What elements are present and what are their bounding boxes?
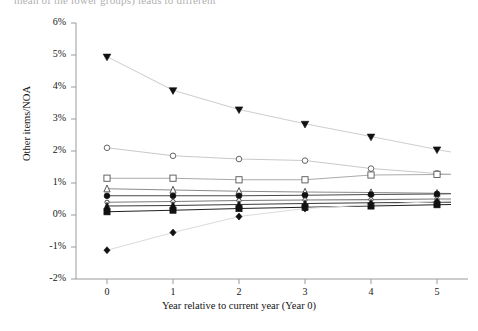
x-tick-label: 0: [92, 286, 122, 297]
data-point-marker: [104, 175, 110, 181]
data-point-marker: [302, 158, 308, 164]
data-point-marker: [170, 153, 176, 159]
y-tick-label: 1%: [26, 176, 66, 187]
data-point-marker: [236, 206, 242, 212]
y-tick-label: 6%: [26, 16, 66, 27]
y-tick-label: 5%: [26, 48, 66, 59]
data-point-marker: [104, 209, 110, 215]
data-point-marker: [104, 193, 110, 199]
data-series: [104, 145, 451, 176]
data-series: [103, 54, 451, 154]
data-point-marker: [236, 193, 242, 199]
data-point-marker: [170, 175, 176, 181]
y-tick-label: -2%: [26, 272, 66, 283]
data-point-marker: [236, 177, 242, 183]
data-series: [104, 198, 451, 254]
data-point-marker: [104, 247, 110, 254]
data-point-marker: [302, 177, 308, 183]
y-tick-label: 4%: [26, 80, 66, 91]
data-point-marker: [434, 191, 440, 197]
data-point-marker: [368, 172, 374, 178]
series-line: [107, 194, 451, 196]
data-point-marker: [236, 213, 242, 220]
chart-figure: mean of the lower groups) leads to diffe…: [0, 0, 478, 331]
data-point-marker: [434, 171, 440, 177]
x-tick-label: 1: [158, 286, 188, 297]
series-line: [107, 148, 451, 175]
x-tick-label: 2: [224, 286, 254, 297]
x-tick-label: 5: [422, 286, 452, 297]
data-point-marker: [170, 207, 176, 213]
series-line: [107, 199, 451, 202]
data-point-marker: [368, 192, 374, 198]
series-line: [107, 189, 451, 194]
y-tick-label: -1%: [26, 240, 66, 251]
data-point-marker: [302, 192, 308, 198]
data-point-marker: [236, 156, 242, 162]
y-tick-label: 0%: [26, 208, 66, 219]
x-tick-label: 4: [356, 286, 386, 297]
y-tick-label: 2%: [26, 144, 66, 155]
y-tick-label: 3%: [26, 112, 66, 123]
data-point-marker: [170, 229, 176, 236]
data-point-marker: [170, 193, 176, 199]
data-series: [104, 171, 451, 183]
series-line: [107, 57, 451, 153]
data-point-marker: [104, 145, 110, 151]
x-tick-label: 3: [290, 286, 320, 297]
plot-canvas: [0, 0, 478, 331]
data-point-marker: [368, 166, 374, 172]
series-line: [107, 174, 451, 180]
